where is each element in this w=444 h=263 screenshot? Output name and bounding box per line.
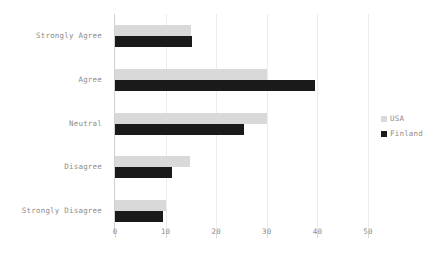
legend-item-usa[interactable]: USA [381,113,443,125]
category-label: Disagree [0,164,102,172]
legend-label-finland: Finland [390,130,423,138]
category-label: Agree [0,76,102,84]
bar-usa-agree [115,69,267,80]
legend-item-finland[interactable]: Finland [381,128,443,140]
bar-finland-disagree [115,167,172,178]
x-axis-tick-label: 20 [211,228,220,236]
x-axis-tick-label: 10 [161,228,170,236]
legend-swatch-usa-icon [381,116,387,122]
gridline [368,14,369,233]
bar-usa-strongly-agree [115,25,191,36]
category-label: Neutral [0,120,102,128]
x-axis-tick-label: 50 [363,228,372,236]
bar-finland-strongly-agree [115,36,192,47]
bar-chart: Strongly AgreeAgreeNeutralDisagreeStrong… [0,0,444,263]
x-axis-tick-label: 40 [313,228,322,236]
category-label: Strongly Agree [0,32,102,40]
x-axis-tick-label: 0 [113,228,118,236]
gridline [267,14,268,233]
bar-finland-neutral [115,124,244,135]
bar-usa-neutral [115,113,267,124]
gridline [317,14,318,233]
bar-finland-agree [115,80,315,91]
chart-legend: USA Finland [381,113,443,143]
bar-finland-strongly-disagree [115,211,163,222]
bar-usa-disagree [115,156,190,167]
legend-label-usa: USA [390,115,404,123]
plot-area [115,14,368,233]
category-axis: Strongly AgreeAgreeNeutralDisagreeStrong… [0,14,110,233]
legend-swatch-finland-icon [381,131,387,137]
bar-usa-strongly-disagree [115,200,166,211]
category-label: Strongly Disagree [0,207,102,215]
x-axis-tick-label: 30 [262,228,271,236]
